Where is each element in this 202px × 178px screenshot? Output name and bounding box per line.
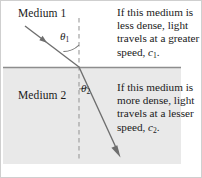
speed-prefix: speed,: [117, 46, 148, 58]
speed-suffix: .: [157, 46, 160, 58]
theta1-arc: [63, 45, 79, 52]
theta1-label: θ1: [60, 30, 69, 44]
annotation-line: If this medium is: [117, 81, 199, 94]
speed-suffix: .: [157, 121, 160, 133]
annotation-line: If this medium is: [117, 6, 199, 19]
theta2-label: θ2: [81, 82, 90, 96]
annotation-line: travels at a lesser: [117, 107, 199, 120]
medium1-annotation-text: If this medium is less dense, light trav…: [117, 6, 199, 61]
annotation-line: travels at a greater: [117, 32, 199, 45]
medium2-label: Medium 2: [18, 89, 66, 103]
annotation-line: less dense, light: [117, 19, 199, 32]
annotation-line: more dense, light: [117, 94, 199, 107]
annotation-line-speed: speed, c1.: [117, 46, 199, 62]
medium2-annotation-text: If this medium is more dense, light trav…: [117, 81, 199, 136]
theta2-subscript: 2: [86, 87, 90, 96]
incident-ray: [25, 26, 79, 67]
incident-ray-arrowhead: [39, 36, 47, 43]
refraction-figure: Medium 1 Medium 2 θ1 θ2 If this medium i…: [0, 0, 202, 178]
theta1-subscript: 1: [65, 35, 69, 44]
annotation-line-speed: speed, c2.: [117, 121, 199, 137]
speed-prefix: speed,: [117, 121, 148, 133]
medium1-label: Medium 1: [18, 7, 66, 21]
